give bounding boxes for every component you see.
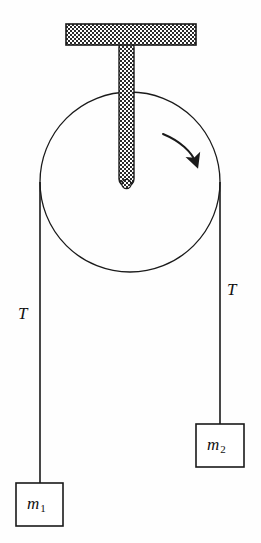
mass-symbol-m2: m xyxy=(207,435,219,454)
mass-symbol-m1: m xyxy=(27,494,39,513)
clockwise-rotation-arrow xyxy=(163,134,196,163)
mass-label-m2: m2 xyxy=(207,436,225,453)
ceiling-mount xyxy=(66,24,196,45)
tension-label-left: T xyxy=(18,305,27,322)
mass-subscript-m1: 1 xyxy=(40,502,46,514)
mass-subscript-m2: 2 xyxy=(220,443,226,455)
pulley-axle-icon xyxy=(122,179,131,188)
tension-label-right: T xyxy=(227,281,236,298)
support-rod xyxy=(119,40,134,186)
pulley-diagram-svg xyxy=(0,0,261,543)
mass-label-m1: m1 xyxy=(27,495,45,512)
diagram-canvas: T T m2 m1 xyxy=(0,0,261,543)
